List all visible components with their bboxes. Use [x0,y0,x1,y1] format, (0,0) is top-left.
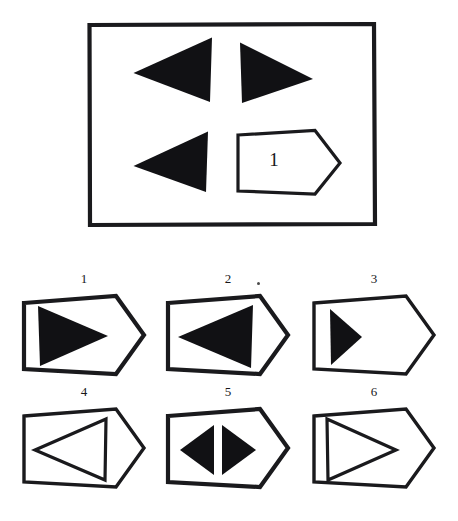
puzzle-root: 1 1 2 3 [0,0,458,521]
option-5-label: 5 [153,385,303,399]
option-1-art [20,293,148,377]
option-3[interactable]: 3 [299,272,449,384]
option-3-label: 3 [299,272,449,286]
stimulus-panel: 1 [87,22,377,227]
stimulus-cell-bottom-left [132,130,214,194]
option-2-label: 2 [153,272,303,286]
option-1[interactable]: 1 [9,272,159,384]
solid-triangle-left-icon [132,36,217,104]
option-2-art [164,293,292,377]
option-5-art [164,406,292,490]
option-5[interactable]: 5 [153,385,303,497]
solid-triangle-right-icon [237,41,317,105]
option-2[interactable]: 2 [153,272,303,384]
option-3-art [310,293,438,377]
stimulus-cell-top-right [237,41,317,105]
stimulus-cell-bottom-right: 1 [235,128,343,198]
option-6[interactable]: 6 [299,385,449,497]
options-grid: 1 2 3 4 [0,272,458,507]
option-1-label: 1 [9,272,159,286]
solid-triangle-left-icon [132,130,214,194]
stimulus-cell-top-left [132,36,217,104]
option-4-label: 4 [9,385,159,399]
option-4[interactable]: 4 [9,385,159,497]
option-6-art [310,406,438,490]
stimulus-cell-number: 1 [235,150,313,170]
option-4-art [20,406,148,490]
option-6-label: 6 [299,385,449,399]
scan-speck [257,282,260,285]
